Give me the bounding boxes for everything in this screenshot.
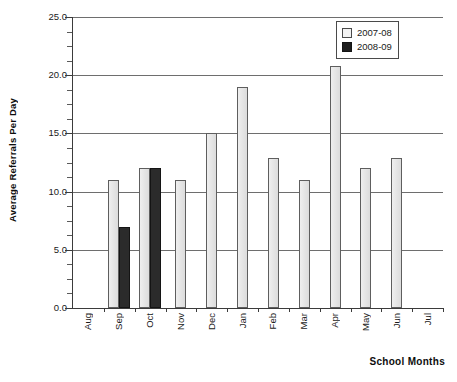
x-axis-tick-label-Apr: Apr [329,313,340,328]
x-axis-tick [381,308,382,312]
x-axis-tick-label-Jul: Jul [422,313,433,325]
bar-2007-08-Dec [206,133,217,308]
x-axis-tick [443,308,444,312]
y-axis-title-text: Average Referrals Per Day [7,98,18,222]
gridline [73,75,443,76]
referrals-bar-chart: Average Referrals Per Day 0.05.010.015.0… [0,0,457,382]
bar-2007-08-Mar [299,180,310,308]
x-axis-tick-label-Oct: Oct [144,313,155,328]
dark-square-swatch [342,42,352,52]
x-axis-tick [227,308,228,312]
y-axis-major-tick [65,192,72,193]
y-axis-major-tick [65,308,72,309]
legend-item-2008-09[interactable]: 2008-09 [342,40,392,53]
bar-2007-08-Sep [108,180,119,308]
bar-2008-09-Oct [150,168,161,308]
gridline [73,192,443,193]
bar-2007-08-Jun [391,158,402,308]
x-axis-tick [196,308,197,312]
x-axis-tick-label-Feb: Feb [267,313,278,329]
bar-2007-08-Jan [237,87,248,308]
bar-2007-08-Feb [268,158,279,308]
y-axis-major-tick [65,133,72,134]
y-axis-major-tick [65,250,72,251]
x-axis-tick-label-Mar: Mar [298,313,309,329]
x-axis-tick-label-Jun: Jun [391,313,402,328]
legend-item-label: 2007-08 [357,27,392,38]
legend-item-label: 2008-09 [357,41,392,52]
x-axis-tick [258,308,259,312]
light-square-swatch [342,28,352,38]
x-axis-tick [135,308,136,312]
gridline [73,133,443,134]
x-axis-tick-label-Nov: Nov [175,313,186,330]
bar-2007-08-Nov [175,180,186,308]
x-axis-tick-label-May: May [360,313,371,331]
x-axis-tick-labels: AugSepOctNovDecJanFebMarAprMayJunJul [72,313,442,353]
legend-item-2007-08[interactable]: 2007-08 [342,26,392,39]
bar-2008-09-Sep [119,227,130,308]
x-axis-tick [351,308,352,312]
plot-area [72,17,443,309]
chart-legend: 2007-082008-09 [336,21,399,59]
x-axis-tick [320,308,321,312]
x-axis-tick-label-Jan: Jan [237,313,248,328]
y-axis-major-tick [65,17,72,18]
y-axis-title: Average Referrals Per Day [0,0,24,320]
x-axis-tick-label-Dec: Dec [206,313,217,330]
x-axis-title: School Months [369,356,445,367]
bar-2007-08-Apr [330,66,341,308]
x-axis-tick [104,308,105,312]
x-axis-tick [166,308,167,312]
bar-2007-08-May [360,168,371,308]
gridline [73,17,443,18]
bar-2007-08-Oct [139,168,150,308]
y-axis-tick-labels: 0.05.010.015.020.025.0 [28,0,72,325]
x-axis-tick [412,308,413,312]
x-axis-tick-label-Sep: Sep [113,313,124,330]
x-axis-tick [289,308,290,312]
y-axis-major-tick [65,75,72,76]
x-axis-tick-label-Aug: Aug [82,313,93,330]
